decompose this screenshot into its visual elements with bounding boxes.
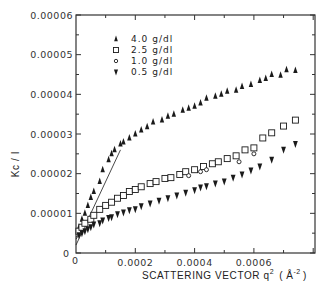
legend-label: 1.0 g/dl [131,56,173,66]
square-marker [224,156,230,162]
triangle-up-marker [98,178,102,185]
triangle-up-marker [234,86,238,93]
triangle-up-marker [284,66,288,73]
triangle-down-marker [121,210,126,217]
square-marker [132,187,138,193]
x-tick-label: 0.0006 [236,257,272,268]
triangle-up-marker [92,188,96,195]
y-tick-label: 0.00006 [30,10,73,21]
triangle-down-marker [240,171,245,178]
triangle-up-marker [121,138,125,145]
square-marker [82,220,88,226]
square-marker [215,159,221,165]
triangle-up-marker [264,74,268,81]
square-marker [147,181,153,187]
x-tick-label: 0.0002 [117,257,153,268]
legend-label: 4.0 g/dl [131,34,173,44]
square-marker [115,195,121,201]
triangle-down-marker [148,200,153,207]
triangle-up-marker [278,71,282,78]
triangle-up-marker [86,201,90,208]
triangle-up-marker [151,118,155,125]
circle-marker [114,59,117,62]
triangle-up-marker [133,130,137,137]
triangle-down-marker [166,195,171,202]
square-marker [192,167,198,173]
legend-item: 1.0 g/dl [114,56,173,66]
square-marker [281,123,287,129]
triangle-up-marker [192,102,196,109]
triangle-down-marker [192,187,197,194]
triangle-up-marker [181,106,185,113]
circle-marker [252,152,256,156]
legend-item: 0.5 g/dl [114,67,173,77]
x-axis-title: SCATTERING VECTOR q2(Å-2) [142,268,307,281]
triangle-up-marker [240,82,244,89]
triangle-up-marker [213,92,217,99]
triangle-up-marker [204,94,208,101]
triangle-up-marker [269,71,273,78]
legend-item: 4.0 g/dl [114,34,173,44]
triangle-up-marker [198,99,202,106]
triangle-up-marker [172,110,176,117]
triangle-down-marker [281,147,286,154]
square-marker [113,47,118,52]
square-marker [120,192,126,198]
legend: 4.0 g/dl2.5 g/dl1.0 g/dl0.5 g/dl [113,34,173,77]
legend-label: 0.5 g/dl [131,67,173,77]
triangle-down-marker [293,141,298,148]
square-marker [97,206,103,212]
circle-marker [237,160,241,164]
circle-marker [199,170,203,174]
square-marker [209,161,215,167]
triangle-up-marker [83,209,87,216]
y-tick-label: 0.00002 [30,168,73,179]
y-tick-label: 0.00004 [30,89,73,100]
triangle-down-marker [157,198,162,205]
square-marker [292,117,298,123]
triangle-down-marker [139,203,144,210]
scattering-chart: 0.000010.000020.000030.000040.000050.000… [0,0,332,295]
triangle-down-marker [174,192,179,199]
triangle-down-marker [204,183,209,190]
triangle-down-marker [133,206,138,213]
triangle-up-marker [100,166,104,173]
x-origin-label: 0 [72,255,79,266]
square-marker [242,147,248,153]
triangle-up-marker [166,112,170,119]
square-marker [260,135,266,141]
y-tick-label: 0.00005 [30,49,73,60]
square-marker [138,184,144,190]
triangle-down-marker [115,211,120,218]
square-marker [103,202,109,208]
square-marker [91,212,97,218]
data-points [76,66,298,239]
triangle-down-marker [183,190,188,197]
square-marker [126,189,132,195]
square-marker [251,145,257,151]
triangle-up-marker [249,80,253,87]
triangle-up-marker [225,87,229,94]
square-marker [177,171,183,177]
square-marker [153,179,159,185]
legend-item: 2.5 g/dl [113,45,173,55]
triangle-down-marker [198,185,203,192]
triangle-down-marker [269,157,274,164]
x-axis: 0.00020.00040.00060 [72,15,313,268]
y-tick-label: 0.00003 [30,129,73,140]
triangle-up-marker [219,90,223,97]
triangle-up-marker [160,116,164,123]
triangle-down-marker [114,69,118,75]
triangle-up-marker [139,126,143,133]
triangle-up-marker [106,156,110,163]
triangle-down-marker [249,167,254,174]
triangle-down-marker [97,220,102,227]
square-marker [269,130,275,136]
triangle-up-marker [145,123,149,130]
square-marker [109,199,115,205]
triangle-up-marker [186,104,190,111]
triangle-up-marker [258,76,262,83]
triangle-up-marker [293,67,297,74]
circle-marker [187,174,191,178]
square-marker [168,175,174,181]
